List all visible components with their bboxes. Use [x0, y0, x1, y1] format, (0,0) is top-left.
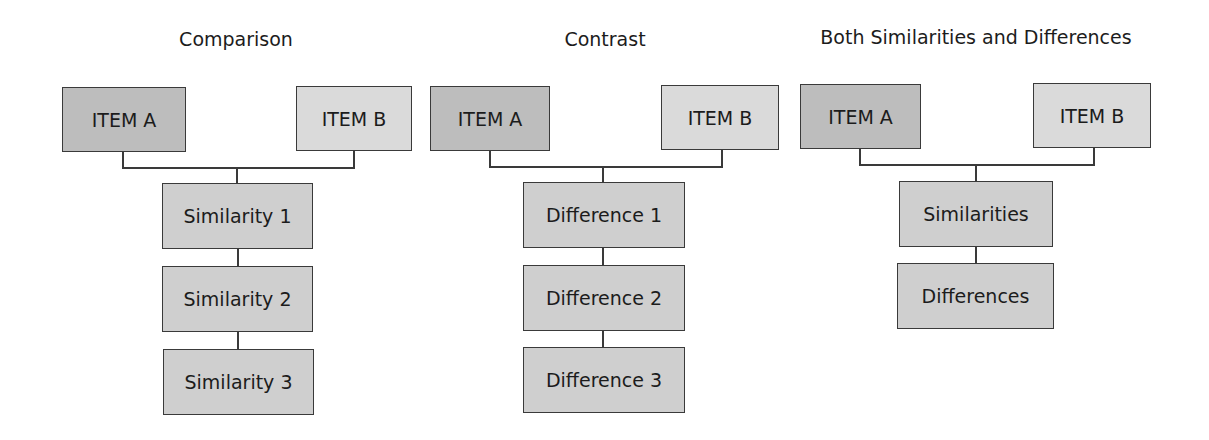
comparison-title: Comparison	[179, 28, 293, 50]
contrast-child-3: Difference 3	[523, 347, 685, 413]
contrast-child-2: Difference 2	[523, 265, 685, 331]
comparison-item-a: ITEM A	[62, 87, 186, 152]
connector-child	[237, 331, 239, 349]
contrast-item-b: ITEM B	[661, 85, 779, 150]
comparison-child-2: Similarity 2	[162, 266, 313, 332]
connector-a	[122, 151, 124, 168]
comparison-item-b: ITEM B	[296, 86, 412, 151]
both-child-2: Differences	[897, 263, 1054, 329]
connector-a	[859, 149, 861, 165]
connector-b	[721, 149, 723, 167]
connector-child	[975, 246, 977, 264]
connector-child	[237, 248, 239, 266]
comparison-child-3: Similarity 3	[163, 349, 314, 415]
both-child-1: Similarities	[899, 181, 1053, 247]
connector-down	[602, 166, 604, 183]
connector-child	[602, 330, 604, 348]
connector-a	[489, 150, 491, 167]
connector-horizontal	[122, 167, 355, 169]
connector-b	[1093, 148, 1095, 165]
connector-horizontal	[489, 166, 723, 168]
connector-child	[602, 247, 604, 265]
comparison-child-1: Similarity 1	[162, 183, 313, 249]
contrast-title: Contrast	[564, 28, 645, 50]
both-title: Both Similarities and Differences	[820, 26, 1131, 48]
connector-b	[353, 150, 355, 168]
connector-down	[975, 164, 977, 181]
connector-down	[236, 167, 238, 184]
both-item-b: ITEM B	[1033, 83, 1151, 148]
contrast-child-1: Difference 1	[523, 182, 685, 248]
both-item-a: ITEM A	[800, 84, 921, 149]
contrast-item-a: ITEM A	[430, 86, 550, 151]
connector-horizontal	[859, 164, 1095, 166]
